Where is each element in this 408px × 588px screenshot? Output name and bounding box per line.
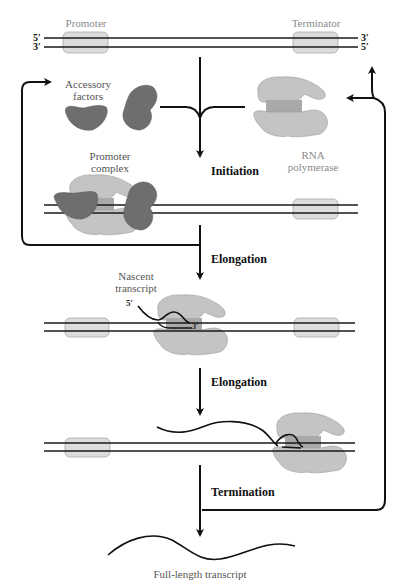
promoter-complex-label-line-2: complex [80, 162, 140, 174]
elongation-dna-2 [44, 413, 355, 473]
accessory-factors-label: Accessory factors [58, 78, 118, 102]
terminator-label: Terminator [287, 17, 345, 29]
dna-end-3-left: 3′ [33, 41, 41, 52]
step-elongation-2: Elongation [211, 375, 267, 390]
step-termination: Termination [211, 485, 275, 500]
promoter-complex-label: Promoter complex [80, 150, 140, 174]
step-initiation: Initiation [211, 164, 259, 179]
nascent-transcript-label-line-1: Nascent [108, 270, 164, 282]
rna-polymerase-label-line-2: polymerase [283, 161, 343, 173]
elongation-dna-1 [44, 295, 355, 355]
top-dna [44, 32, 358, 53]
nascent-transcript-label: Nascent transcript [108, 270, 164, 294]
promoter-complex-label-line-1: Promoter [80, 150, 140, 162]
full-length-transcript-strand [108, 536, 295, 559]
step-elongation-1: Elongation [211, 252, 267, 267]
accessory-factors-label-line-1: Accessory [58, 78, 118, 90]
full-length-transcript-label: Full-length transcript [140, 568, 260, 580]
rna-polymerase-label: RNA polymerase [283, 149, 343, 173]
accessory-factors-label-line-2: factors [58, 90, 118, 102]
nascent-3prime-label: 3′ [192, 321, 198, 333]
rna-polymerase [254, 77, 328, 137]
promoter-label: Promoter [62, 17, 110, 29]
rna-polymerase-label-line-1: RNA [283, 149, 343, 161]
dna-end-5-right: 5′ [361, 41, 369, 52]
nascent-5prime-label: 5′ [126, 297, 133, 309]
nascent-transcript-label-line-2: transcript [108, 282, 164, 294]
